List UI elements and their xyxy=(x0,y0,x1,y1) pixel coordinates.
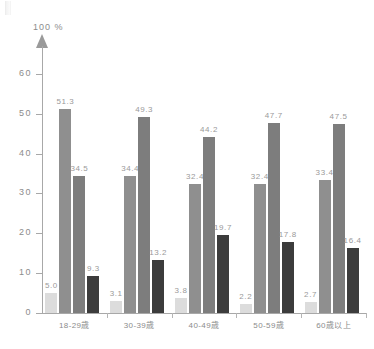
bar: 2.2 xyxy=(240,304,252,313)
y-axis-tick-label: 10 xyxy=(0,267,32,277)
x-axis-category-label: 40-49歳 xyxy=(172,319,237,330)
y-axis-tick-label: 20 xyxy=(0,227,32,237)
bar-value-label: 3.8 xyxy=(175,286,188,295)
bar-value-label: 13.2 xyxy=(149,248,167,257)
bar: 51.3 xyxy=(59,109,71,313)
bar-value-label: 32.4 xyxy=(186,172,204,181)
x-axis-category-label: 18-29歳 xyxy=(42,319,107,330)
chart-canvas: 100 % 0102030405060 5.051.334.59.33.134.… xyxy=(0,0,374,349)
bar: 47.7 xyxy=(268,123,280,313)
plot-area: 5.051.334.59.33.134.449.313.23.832.444.2… xyxy=(42,46,366,313)
bar: 32.4 xyxy=(254,184,266,313)
bar: 3.8 xyxy=(175,298,187,313)
bar: 9.3 xyxy=(87,276,99,313)
scan-artifact xyxy=(5,1,11,15)
x-axis-tick xyxy=(236,313,237,318)
y-axis-tick-label: 40 xyxy=(0,148,32,158)
bar: 16.4 xyxy=(347,248,359,313)
bar: 34.4 xyxy=(124,176,136,313)
y-axis-tick-label: 0 xyxy=(0,307,32,317)
bar-group: 3.134.449.313.2 xyxy=(107,46,172,313)
bar-value-label: 33.4 xyxy=(316,168,334,177)
bar: 49.3 xyxy=(138,117,150,313)
bar-value-label: 17.8 xyxy=(279,230,297,239)
bar-value-label: 51.3 xyxy=(56,97,74,106)
bar-value-label: 32.4 xyxy=(251,172,269,181)
bar: 3.1 xyxy=(110,301,122,313)
bar-value-label: 44.2 xyxy=(200,125,218,134)
bar: 19.7 xyxy=(217,235,229,314)
bar-group: 2.232.447.717.8 xyxy=(236,46,301,313)
y-axis-tick-label: 30 xyxy=(0,187,32,197)
bar-group: 3.832.444.219.7 xyxy=(172,46,237,313)
bar-value-label: 16.4 xyxy=(344,236,362,245)
bar-value-label: 9.3 xyxy=(87,264,100,273)
y-axis-tick xyxy=(36,313,42,314)
bar: 32.4 xyxy=(189,184,201,313)
y-axis-tick-label: 60 xyxy=(0,68,32,78)
bar: 34.5 xyxy=(73,176,85,313)
x-axis-category-label: 60歳以上 xyxy=(301,319,366,330)
bar-value-label: 47.7 xyxy=(265,111,283,120)
bar-value-label: 34.4 xyxy=(121,164,139,173)
x-axis-tick xyxy=(301,313,302,318)
x-axis-tick xyxy=(366,313,367,318)
axis-unit-label: 100 % xyxy=(33,22,64,32)
x-axis-tick xyxy=(172,313,173,318)
bar-value-label: 49.3 xyxy=(135,105,153,114)
bar-group: 2.733.447.516.4 xyxy=(301,46,366,313)
bar: 33.4 xyxy=(319,180,331,313)
x-axis-category-label: 50-59歳 xyxy=(236,319,301,330)
bar-value-label: 3.1 xyxy=(110,289,123,298)
bar-value-label: 47.5 xyxy=(330,112,348,121)
bar: 17.8 xyxy=(282,242,294,313)
bar: 13.2 xyxy=(152,260,164,313)
bar: 5.0 xyxy=(45,293,57,313)
bar: 47.5 xyxy=(333,124,345,313)
bar-group: 5.051.334.59.3 xyxy=(42,46,107,313)
bar: 2.7 xyxy=(305,302,317,313)
bar-value-label: 19.7 xyxy=(214,223,232,232)
bar-value-label: 34.5 xyxy=(70,164,88,173)
x-axis-line xyxy=(42,313,366,314)
x-axis-tick xyxy=(107,313,108,318)
bar-value-label: 2.2 xyxy=(239,292,252,301)
bar-value-label: 5.0 xyxy=(45,281,58,290)
y-axis-tick-label: 50 xyxy=(0,108,32,118)
bar-value-label: 2.7 xyxy=(304,290,317,299)
x-axis-category-label: 30-39歳 xyxy=(107,319,172,330)
